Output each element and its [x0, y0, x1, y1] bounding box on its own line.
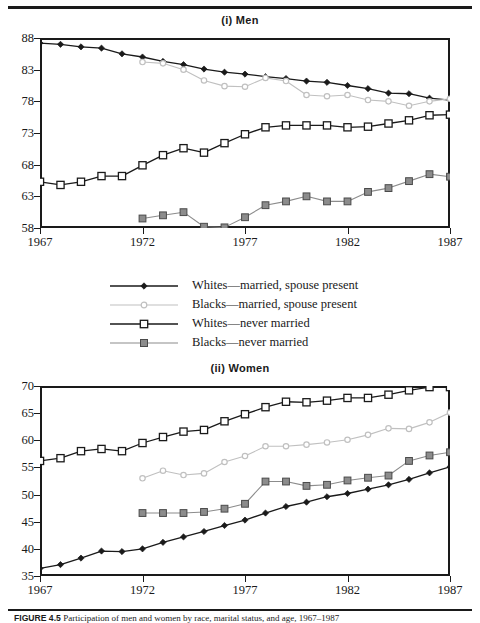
- y-axis-tick-label: 83: [22, 62, 35, 77]
- x-axis-tick-label: 1987: [438, 583, 463, 598]
- x-axis-tick-mark: [348, 228, 349, 234]
- y-axis-tick-label: 55: [22, 460, 35, 475]
- legend-item: Blacks—never married: [108, 333, 408, 352]
- legend-key-whites-married-icon: [108, 279, 180, 293]
- x-axis-tick-mark: [245, 228, 246, 234]
- legend-label: Whites—never married: [192, 316, 310, 331]
- data-series: [40, 40, 450, 103]
- top-rule: [8, 6, 472, 9]
- x-axis-tick-label: 1977: [233, 235, 258, 250]
- y-axis-tick-label: 60: [22, 433, 35, 448]
- y-axis-tick-label: 35: [22, 569, 35, 584]
- y-axis-tick-mark: [34, 467, 40, 468]
- x-axis-tick-mark: [143, 576, 144, 582]
- x-axis-tick-mark: [143, 228, 144, 234]
- y-axis-tick-mark: [34, 165, 40, 166]
- y-axis-tick-label: 68: [22, 157, 35, 172]
- legend-key-blacks-married-icon: [108, 298, 180, 312]
- chart-panel-men: 5863687378838819671972197719821987: [40, 38, 450, 228]
- y-axis-tick-label: 63: [22, 189, 35, 204]
- y-axis-tick-mark: [34, 38, 40, 39]
- legend-label: Whites—married, spouse present: [192, 278, 358, 293]
- x-axis-tick-mark: [40, 576, 41, 582]
- legend-label: Blacks—married, spouse present: [192, 297, 357, 312]
- y-axis-tick-label: 40: [22, 541, 35, 556]
- x-axis-tick-label: 1967: [28, 235, 53, 250]
- y-axis-tick-mark: [34, 549, 40, 550]
- x-axis-tick-mark: [348, 576, 349, 582]
- data-series: [139, 171, 450, 228]
- panel-title-men: (i) Men: [0, 14, 480, 26]
- y-axis-tick-mark: [34, 133, 40, 134]
- x-axis-tick-mark: [40, 228, 41, 234]
- y-axis-tick-label: 65: [22, 406, 35, 421]
- x-axis-tick-mark: [450, 228, 451, 234]
- plot-area-women: [40, 386, 450, 576]
- bottom-rule: [8, 609, 472, 611]
- y-axis-tick-mark: [34, 522, 40, 523]
- legend-key-blacks-never-married-icon: [108, 336, 180, 350]
- x-axis-tick-label: 1987: [438, 235, 463, 250]
- data-series: [140, 410, 450, 481]
- y-axis-tick-mark: [34, 101, 40, 102]
- chart-legend: Whites—married, spouse present Blacks—ma…: [108, 276, 408, 352]
- plot-area-men: [40, 38, 450, 228]
- data-series: [40, 464, 450, 572]
- y-axis-tick-label: 45: [22, 514, 35, 529]
- x-axis-tick-label: 1972: [130, 235, 155, 250]
- y-axis-tick-label: 70: [22, 379, 35, 394]
- panel-title-women: (ii) Women: [0, 362, 480, 374]
- data-series: [139, 449, 450, 517]
- x-axis-tick-label: 1982: [335, 583, 360, 598]
- chart-panel-women: 354045505560657019671972197719821987: [40, 386, 450, 576]
- y-axis-tick-mark: [34, 413, 40, 414]
- y-axis-tick-label: 58: [22, 221, 35, 236]
- figure-caption: FIGURE 4.5 Participation of men and wome…: [14, 613, 472, 623]
- figure-caption-text: Participation of men and women by race, …: [63, 613, 339, 623]
- legend-item: Whites—never married: [108, 314, 408, 333]
- data-series: [40, 111, 450, 188]
- y-axis-tick-label: 78: [22, 94, 35, 109]
- legend-label: Blacks—never married: [192, 335, 308, 350]
- x-axis-tick-mark: [450, 576, 451, 582]
- figure-caption-label: FIGURE 4.5: [14, 613, 61, 623]
- data-series: [140, 59, 450, 108]
- y-axis-tick-mark: [34, 440, 40, 441]
- y-axis-tick-mark: [34, 495, 40, 496]
- legend-item: Whites—married, spouse present: [108, 276, 408, 295]
- y-axis-tick-label: 73: [22, 126, 35, 141]
- y-axis-tick-mark: [34, 386, 40, 387]
- y-axis-tick-mark: [34, 70, 40, 71]
- x-axis-tick-label: 1982: [335, 235, 360, 250]
- x-axis-tick-label: 1972: [130, 583, 155, 598]
- legend-item: Blacks—married, spouse present: [108, 295, 408, 314]
- legend-key-whites-never-married-icon: [108, 317, 180, 331]
- x-axis-tick-label: 1967: [28, 583, 53, 598]
- y-axis-tick-label: 88: [22, 31, 35, 46]
- x-axis-tick-label: 1977: [233, 583, 258, 598]
- y-axis-tick-label: 50: [22, 487, 35, 502]
- y-axis-tick-mark: [34, 196, 40, 197]
- x-axis-tick-mark: [245, 576, 246, 582]
